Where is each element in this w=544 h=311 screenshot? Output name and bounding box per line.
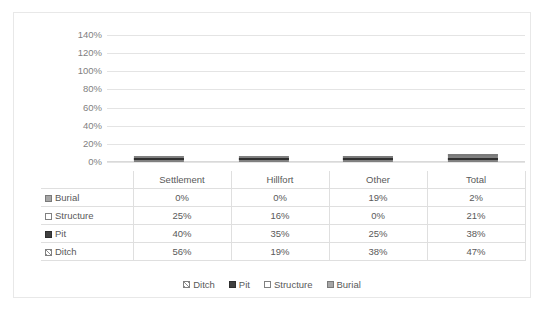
pit-swatch-icon — [229, 281, 236, 288]
table-cell: 40% — [133, 225, 231, 243]
bar-segment-ditch[interactable] — [239, 160, 289, 162]
plot-region: 0%20%40%60%80%100%120%140% — [14, 13, 530, 171]
bar-segment-ditch[interactable] — [448, 160, 498, 162]
legend-item-label: Ditch — [193, 279, 215, 290]
table-corner-cell — [41, 171, 133, 189]
ditch-swatch-icon — [183, 281, 190, 288]
bar-segment-ditch[interactable] — [134, 160, 184, 162]
stacked-bar[interactable] — [134, 156, 184, 162]
table-row: Structure25%16%0%21% — [41, 207, 525, 225]
gridline — [107, 162, 525, 163]
legend-item-burial[interactable]: Burial — [327, 279, 361, 290]
table-row: Burial0%0%19%2% — [41, 189, 525, 207]
table-cell: 16% — [231, 207, 329, 225]
chart-frame: 0%20%40%60%80%100%120%140% SettlementHil… — [13, 12, 531, 298]
table-row-header: Structure — [41, 207, 133, 225]
table-row-label: Structure — [55, 210, 94, 221]
y-axis-tick-label: 120% — [56, 48, 102, 58]
table-cell: 47% — [427, 243, 525, 261]
y-axis-tick-label: 40% — [56, 121, 102, 131]
stacked-bar[interactable] — [239, 156, 289, 162]
table-cell: 0% — [133, 189, 231, 207]
legend-item-ditch[interactable]: Ditch — [183, 279, 215, 290]
y-axis-tick-label: 0% — [56, 157, 102, 167]
chart-legend: DitchPitStructureBurial — [14, 279, 530, 290]
table-cell: 56% — [133, 243, 231, 261]
burial-swatch-icon — [327, 281, 334, 288]
stacked-bar[interactable] — [448, 154, 498, 162]
structure-swatch-icon — [45, 213, 52, 220]
bar-group-hillfort — [212, 35, 317, 162]
table-cell: 25% — [329, 225, 427, 243]
table-row-header: Pit — [41, 225, 133, 243]
table-header-row: SettlementHillfortOtherTotal — [41, 171, 525, 189]
table-column-header: Settlement — [133, 171, 231, 189]
table-cell: 35% — [231, 225, 329, 243]
table-column-header: Other — [329, 171, 427, 189]
table-column-header: Hillfort — [231, 171, 329, 189]
bar-group-other — [316, 35, 421, 162]
table-cell: 2% — [427, 189, 525, 207]
table-cell: 25% — [133, 207, 231, 225]
table-row: Pit40%35%25%38% — [41, 225, 525, 243]
table-cell: 19% — [329, 189, 427, 207]
table-cell: 0% — [329, 207, 427, 225]
table-cell: 0% — [231, 189, 329, 207]
table-row-header: Burial — [41, 189, 133, 207]
stacked-bar[interactable] — [343, 156, 393, 162]
legend-item-pit[interactable]: Pit — [229, 279, 250, 290]
table-row-header: Ditch — [41, 243, 133, 261]
y-axis-tick-label: 20% — [56, 139, 102, 149]
legend-item-label: Pit — [239, 279, 250, 290]
table-column-header: Total — [427, 171, 525, 189]
bar-segment-ditch[interactable] — [343, 160, 393, 162]
bar-group-settlement — [107, 35, 212, 162]
table-cell: 19% — [231, 243, 329, 261]
table-cell: 38% — [329, 243, 427, 261]
table-row-label: Pit — [55, 228, 66, 239]
legend-item-label: Burial — [337, 279, 361, 290]
pit-swatch-icon — [45, 231, 52, 238]
y-axis-tick-label: 100% — [56, 67, 102, 77]
burial-swatch-icon — [45, 195, 52, 202]
legend-item-label: Structure — [274, 279, 313, 290]
structure-swatch-icon — [264, 281, 271, 288]
table-row: Ditch56%19%38%47% — [41, 243, 525, 261]
plot-area — [107, 35, 525, 162]
bar-series-layer — [107, 35, 525, 162]
table-cell: 21% — [427, 207, 525, 225]
y-axis-tick-label: 60% — [56, 103, 102, 113]
y-axis-tick-label: 80% — [56, 85, 102, 95]
y-axis-tick-label: 140% — [56, 30, 102, 40]
table-row-label: Burial — [55, 192, 79, 203]
table-cell: 38% — [427, 225, 525, 243]
table-row-label: Ditch — [55, 246, 77, 257]
legend-item-structure[interactable]: Structure — [264, 279, 313, 290]
data-table: SettlementHillfortOtherTotalBurial0%0%19… — [41, 171, 526, 261]
y-axis: 0%20%40%60%80%100%120%140% — [56, 35, 102, 162]
ditch-swatch-icon — [45, 249, 52, 256]
bar-group-total — [421, 35, 526, 162]
